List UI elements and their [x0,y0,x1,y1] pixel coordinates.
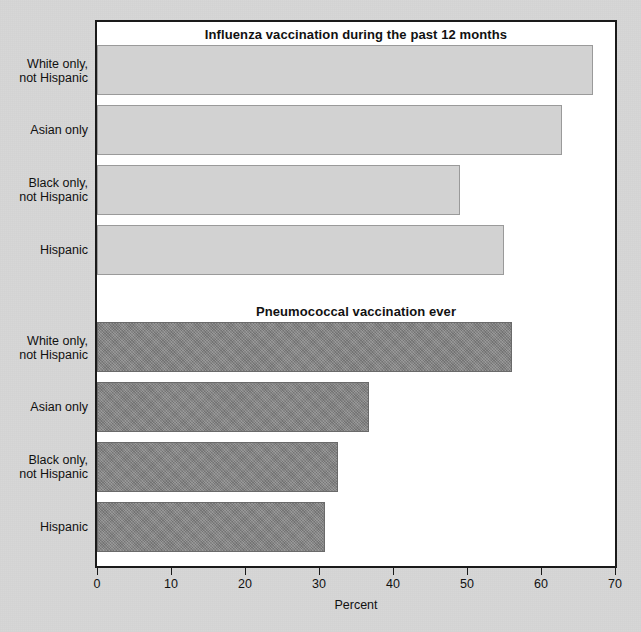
axis-tick-50 [467,568,468,575]
category-label-pneu-black: Black only, not Hispanic [0,453,88,481]
axis-tick-label-20: 20 [238,577,252,591]
category-label-line2: not Hispanic [0,467,88,481]
value-axis: 010203040506070 Percent [95,568,617,632]
chart-plot-area: Influenza vaccination during the past 12… [95,20,617,568]
category-label-pneu-asian: Asian only [0,400,88,414]
category-label-line1: Black only, [0,453,88,467]
category-label-line1: White only, [0,57,88,71]
axis-tick-0 [97,568,98,575]
axis-tick-60 [541,568,542,575]
bar-influenza-hispanic[interactable] [97,225,504,275]
category-label-line2: not Hispanic [0,348,88,362]
bar-pneumococcal-white[interactable] [97,322,512,372]
axis-tick-label-40: 40 [386,577,400,591]
bar-influenza-black[interactable] [97,165,460,215]
value-axis-title: Percent [95,598,617,612]
category-label-line1: Asian only [0,123,88,137]
axis-tick-30 [319,568,320,575]
category-label-pneu-white: White only, not Hispanic [0,334,88,362]
axis-tick-10 [171,568,172,575]
category-label-line2: not Hispanic [0,71,88,85]
category-label-pneu-hispanic: Hispanic [0,520,88,534]
category-label-line1: Asian only [0,400,88,414]
category-label-flu-asian: Asian only [0,123,88,137]
bar-pneumococcal-hispanic[interactable] [97,502,325,552]
axis-tick-40 [393,568,394,575]
category-axis-labels: White only, not Hispanic Asian only Blac… [0,0,88,632]
axis-tick-label-50: 50 [460,577,474,591]
category-label-line2: not Hispanic [0,190,88,204]
bar-influenza-asian[interactable] [97,105,562,155]
bar-pneumococcal-black[interactable] [97,442,338,492]
category-label-line1: Hispanic [0,243,88,257]
category-label-flu-white: White only, not Hispanic [0,57,88,85]
axis-tick-label-60: 60 [534,577,548,591]
category-label-line1: White only, [0,334,88,348]
category-label-flu-hispanic: Hispanic [0,243,88,257]
axis-tick-label-30: 30 [312,577,326,591]
axis-tick-label-10: 10 [164,577,178,591]
panel-title-pneumococcal: Pneumococcal vaccination ever [97,304,615,319]
category-label-flu-black: Black only, not Hispanic [0,176,88,204]
category-label-line1: Hispanic [0,520,88,534]
axis-tick-70 [615,568,616,575]
category-label-line1: Black only, [0,176,88,190]
axis-tick-label-0: 0 [94,577,101,591]
axis-tick-20 [245,568,246,575]
axis-tick-label-70: 70 [608,577,622,591]
panel-title-influenza: Influenza vaccination during the past 12… [97,27,615,42]
bar-pneumococcal-asian[interactable] [97,382,369,432]
bar-influenza-white[interactable] [97,45,593,95]
